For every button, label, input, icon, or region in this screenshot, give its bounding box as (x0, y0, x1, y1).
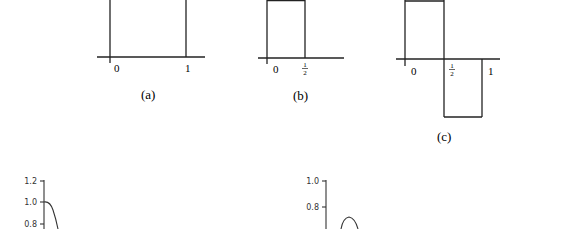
svg-text:1: 1 (303, 61, 307, 69)
svg-text:1: 1 (450, 62, 454, 70)
figure-c (396, 0, 500, 117)
figure-b (258, 0, 344, 64)
figure-canvas: 0 1 (a) 0 1 2 (b) 0 1 2 1 (c) 1.2 1.0 (0, 0, 565, 229)
svg-text:2: 2 (303, 69, 307, 77)
tick-label-half: 1 2 (449, 62, 455, 78)
tick-label-1: 1 (185, 62, 191, 74)
svg-text:2: 2 (450, 70, 454, 78)
y-tick-label: 1.0 (306, 177, 319, 186)
tick-label-0: 0 (114, 62, 120, 74)
plot-right (322, 180, 358, 229)
tick-label-1: 1 (488, 65, 494, 77)
tick-label-half: 1 2 (302, 61, 308, 77)
plot-left (40, 180, 58, 229)
curve (44, 202, 58, 229)
y-tick-label: 1.2 (24, 177, 37, 186)
y-tick-label: 0.8 (306, 203, 319, 212)
tick-label-0: 0 (411, 65, 417, 77)
caption-b: (b) (293, 88, 308, 103)
caption-c: (c) (437, 129, 451, 144)
figure-a (97, 0, 205, 63)
curve (341, 217, 358, 229)
tick-label-0: 0 (273, 63, 279, 75)
y-tick-label: 1.0 (24, 198, 37, 207)
caption-a: (a) (141, 87, 155, 102)
y-tick-label: 0.8 (24, 220, 37, 229)
